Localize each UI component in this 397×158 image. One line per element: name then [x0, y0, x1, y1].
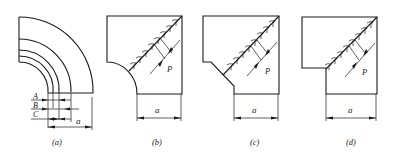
panel-d: P a (d) — [302, 17, 377, 147]
panel-caption: (b) — [152, 137, 162, 147]
arrow-icon — [85, 126, 92, 129]
arrow-icon — [254, 62, 259, 69]
pitch-ext — [349, 46, 359, 60]
pitch-ext — [355, 40, 366, 54]
weld-seam — [129, 16, 182, 71]
arrow-icon — [265, 49, 270, 56]
arrow-icon — [326, 117, 333, 120]
pitch-label: P — [166, 64, 172, 74]
arrow-icon — [234, 117, 241, 120]
arrow-icon — [42, 99, 48, 102]
pitch-ext — [154, 44, 165, 59]
arrow-icon — [59, 99, 65, 102]
pitch-ext — [257, 40, 268, 54]
arrow-icon — [363, 49, 368, 56]
pitch-label: P — [361, 67, 367, 77]
arrow-icon — [59, 118, 65, 121]
dimension-label: a — [252, 105, 257, 115]
arrow-icon — [271, 117, 278, 120]
arrow-icon — [369, 117, 376, 120]
panel-caption: (c) — [250, 137, 260, 147]
pitch-dimension — [345, 43, 375, 77]
figure-canvas: A B C a (a) — [0, 0, 397, 158]
panel-caption: (a) — [52, 137, 62, 147]
panel-a: A B C a (a) — [19, 17, 93, 147]
panel-c: P a (c) — [203, 16, 279, 147]
layer-label-a: A — [32, 92, 38, 101]
pitch-ext — [251, 46, 261, 60]
arrow-icon — [53, 118, 59, 121]
arrow-icon — [174, 117, 181, 120]
arrow-icon — [158, 60, 163, 67]
panel-b: P a (b) — [107, 16, 182, 147]
layer-label-b: B — [33, 101, 38, 110]
layer-label-c: C — [33, 110, 39, 119]
arrow-icon — [48, 126, 55, 129]
dimension-label: a — [155, 105, 160, 115]
weld-seam — [326, 17, 377, 69]
arrow-icon — [42, 108, 48, 111]
arrow-icon — [168, 47, 173, 54]
pitch-label: P — [264, 66, 270, 76]
arrow-icon — [137, 117, 144, 120]
dimension-label: a — [348, 105, 353, 115]
arc-a — [19, 39, 71, 92]
arrow-icon — [64, 108, 70, 111]
panel-caption: (d) — [346, 137, 356, 147]
dimension-label: a — [76, 116, 81, 126]
